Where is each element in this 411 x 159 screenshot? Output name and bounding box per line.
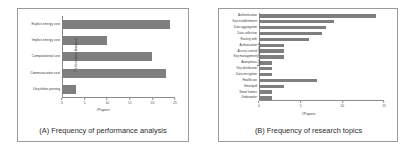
bar-row (62, 52, 175, 61)
y-tick-label: Computational cost (15, 52, 60, 61)
y-tick-label: Data encryption (217, 73, 257, 76)
x-tick-label: 5 (84, 98, 86, 105)
x-tick-label: 15 (128, 98, 132, 105)
y-tick-label: Unq tirbse proving (15, 85, 60, 94)
bar (259, 14, 376, 17)
figure-a-bar-rows (62, 16, 175, 98)
figure-pair-container: Explicit energy costImplicit energy cost… (0, 0, 411, 159)
x-tick-label: 0 (258, 101, 260, 108)
bar-row (259, 73, 384, 76)
x-tick-label: 25 (173, 98, 177, 105)
y-tick-label: Key management (217, 55, 257, 58)
y-tick-label: Communication cost (15, 69, 60, 78)
y-tick-label: Smart homes (217, 90, 257, 93)
bar (259, 96, 272, 99)
x-tick-label: 5 (300, 101, 302, 108)
y-tick-label: Key establishment (217, 20, 257, 23)
y-tick-label: Smartgrid (217, 85, 257, 88)
bar (259, 38, 309, 41)
bar-row (259, 44, 384, 47)
bar (259, 26, 326, 29)
bar-row (259, 20, 384, 23)
figure-b-research-topics: AuthenticationKey establishmentData aggr… (206, 0, 411, 159)
tick-mark (383, 101, 384, 103)
x-tick-label: 10 (105, 98, 109, 105)
tick-mark (129, 98, 130, 100)
tick-mark (152, 98, 153, 100)
x-tick-label: 15 (382, 101, 386, 108)
bar (259, 85, 284, 88)
bar-row (259, 26, 384, 29)
bar-row (259, 32, 384, 35)
bar-row (259, 61, 384, 64)
y-tick-label: Data collection (217, 32, 257, 35)
figure-b-caption: (B) Frequency of research topics (206, 126, 411, 135)
x-tick-label: 20 (151, 98, 155, 105)
bar (259, 20, 334, 23)
figure-a-y-tick-labels: Explicit energy costImplicit energy cost… (15, 16, 60, 98)
figure-b-y-tick-labels: AuthenticationKey establishmentData aggr… (217, 13, 257, 101)
y-tick-label: Anonymous (217, 61, 257, 64)
bar (62, 20, 170, 29)
y-tick-label: Authentication (217, 14, 257, 17)
bar-row (62, 20, 175, 29)
figure-a-x-tick-labels: 0510152025 (62, 98, 175, 106)
figure-a-plot-area: Explicit energy costImplicit energy cost… (62, 16, 175, 98)
tick-mark (107, 98, 108, 100)
y-tick-label: Routing with (217, 38, 257, 41)
tick-mark (300, 101, 301, 103)
y-tick-label: Key distribution (217, 67, 257, 70)
bar-row (259, 85, 384, 88)
figure-b-y-axis-title: Topic Research (257, 25, 261, 85)
x-tick-label: 0 (61, 98, 63, 105)
figure-a-x-axis-title: #Papers (0, 108, 206, 112)
y-tick-label: Implicit energy cost (15, 36, 60, 45)
bar (259, 55, 284, 58)
bar (62, 85, 76, 94)
y-tick-label: Healthcare (217, 79, 257, 82)
y-tick-label: Underwater (217, 96, 257, 99)
bar (62, 36, 107, 45)
bar-row (62, 69, 175, 78)
y-tick-label: Access control (217, 49, 257, 52)
figure-a-performance-analysis: Explicit energy costImplicit energy cost… (0, 0, 206, 159)
y-tick-label: Data aggregation (217, 26, 257, 29)
tick-mark (259, 101, 260, 103)
y-tick-label: Explicit energy cost (15, 20, 60, 29)
bar-row (259, 55, 384, 58)
y-tick-label: Authorization (217, 44, 257, 47)
bar-row (259, 90, 384, 93)
tick-mark (84, 98, 85, 100)
bar (259, 49, 284, 52)
tick-mark (62, 98, 63, 100)
figure-b-x-axis-title: #Papers (206, 112, 411, 116)
bar-row (62, 36, 175, 45)
bar-row (259, 96, 384, 99)
tick-mark (174, 98, 175, 100)
tick-mark (342, 101, 343, 103)
bar-row (259, 14, 384, 17)
bar-row (259, 38, 384, 41)
bar-row (259, 79, 384, 82)
bar (259, 79, 317, 82)
bar-row (259, 67, 384, 70)
bar-row (259, 49, 384, 52)
figure-a-y-axis-title: Performance Analysis (74, 25, 78, 85)
bar (259, 90, 272, 93)
bar (259, 44, 284, 47)
x-tick-label: 10 (341, 101, 345, 108)
figure-b-plot-area: AuthenticationKey establishmentData aggr… (259, 13, 384, 101)
figure-b-bar-rows (259, 13, 384, 101)
figure-b-x-tick-labels: 051015 (259, 101, 384, 109)
figure-a-caption: (A) Frequency of performance analysis (0, 126, 206, 135)
bar-row (62, 85, 175, 94)
bar (259, 32, 322, 35)
